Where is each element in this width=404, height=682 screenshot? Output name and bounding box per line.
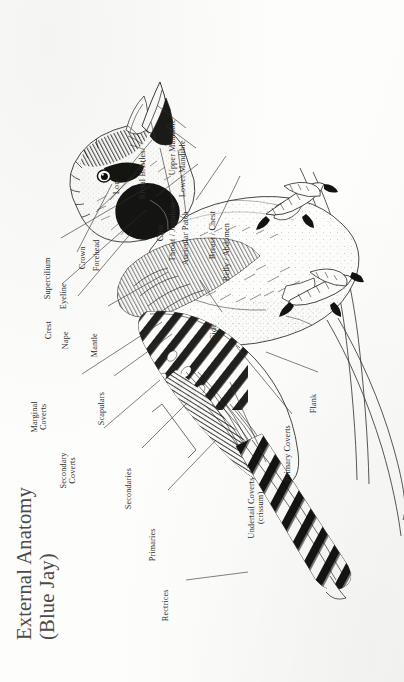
label-crown: Crown (78, 246, 87, 269)
label-primaries: Primaries (148, 528, 157, 561)
label-marginal-coverts: Marginal Coverts (30, 401, 48, 432)
bird-eye (97, 170, 110, 182)
label-undertail-coverts-line2: (crissum) (256, 477, 265, 538)
label-secondary-coverts: Secondary Coverts (59, 452, 77, 488)
label-secondary-coverts-line2: Coverts (68, 452, 77, 488)
label-marginal-coverts-line1: Marginal (30, 401, 39, 432)
label-scapulars: Scapulars (97, 392, 106, 425)
label-side: Side (209, 324, 218, 339)
label-belly-abdomen: Belly / Abdomen (222, 223, 231, 281)
label-mantle: Mantle (90, 333, 99, 357)
label-secondaries: Secondaries (124, 468, 133, 509)
label-nape: Nape (61, 331, 70, 349)
label-secondary-coverts-line1: Secondary (59, 452, 68, 488)
label-rictal-bristles: Rictal Bristles (138, 150, 147, 199)
label-throat-jugulum: Throat / Jugulum (168, 202, 177, 261)
label-primary-coverts: Primary Coverts (283, 425, 292, 481)
label-rectrices: Rectrices (161, 589, 170, 621)
anatomy-diagram-page: External Anatomy (Blue Jay) (0, 0, 404, 682)
label-flank: Flank (309, 394, 318, 413)
label-lore: Lore (112, 178, 121, 194)
label-undertail-coverts-line1: Undertail Coverts (247, 477, 256, 538)
label-breast-chest: Breast / Chest (208, 211, 217, 259)
label-forehead: Forehead (92, 240, 101, 272)
label-eyeline: Eyeline (59, 283, 68, 309)
label-marginal-coverts-line2: Coverts (39, 401, 48, 432)
label-crest: Crest (44, 321, 53, 339)
label-upper-mandible: Upper Mandible (168, 119, 177, 175)
label-undertail-coverts: Undertail Coverts (crissum) (247, 477, 265, 538)
label-supercilium: Supercilium (43, 258, 52, 300)
label-chin: Chin (156, 225, 165, 242)
label-auricular-patch: Auricular Patch (181, 211, 190, 265)
bird-figure (64, 82, 364, 610)
label-lower-mandible: Lower Mandible (178, 140, 187, 197)
